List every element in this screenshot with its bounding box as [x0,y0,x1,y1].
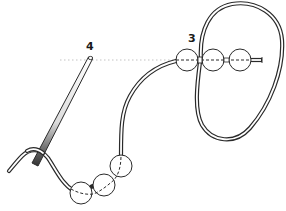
beading-diagram [0,0,286,211]
step-4-label: 4 [86,41,94,52]
thread [9,3,282,191]
step-3-label: 3 [188,33,196,44]
top-beads [176,49,251,71]
bottom-beads [70,155,132,204]
